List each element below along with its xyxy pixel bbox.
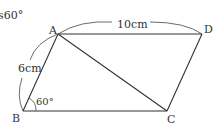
parallelogram-diagram: s60° 10cm 6cm 60° A D B C — [0, 0, 224, 134]
partial-text: s60° — [0, 9, 23, 22]
diagonal-ac — [58, 34, 167, 111]
side-dc — [167, 34, 202, 111]
arc-ab-top — [30, 34, 58, 60]
label-ab-length: 6cm — [18, 62, 42, 75]
vertex-label-c: C — [167, 113, 175, 126]
vertex-label-b: B — [12, 112, 20, 125]
arc-ad-right — [150, 22, 202, 34]
vertex-label-a: A — [48, 24, 58, 37]
angle-b-arc — [29, 98, 36, 111]
arc-ab-bottom — [19, 78, 23, 111]
arc-ad-left — [58, 22, 112, 34]
vertex-label-d: D — [204, 23, 213, 36]
label-ad-length: 10cm — [117, 18, 148, 31]
label-angle-b: 60° — [36, 96, 54, 107]
